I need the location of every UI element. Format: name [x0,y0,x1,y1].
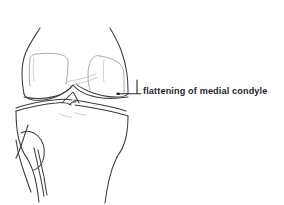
figure-canvas: flattening of medial condyle [0,0,284,205]
annotation-label-medial-condyle: flattening of medial condyle [143,86,267,97]
knee-line-drawing [0,0,284,205]
figure-background [0,0,284,205]
leader-dot-marker [117,93,120,95]
